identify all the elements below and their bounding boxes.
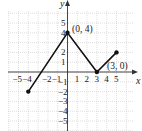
svg-text:−3: −3 <box>58 96 68 106</box>
svg-text:−4: −4 <box>22 74 32 84</box>
svg-text:1: 1 <box>75 74 80 84</box>
svg-text:1: 1 <box>61 57 66 67</box>
svg-text:−5: −5 <box>58 116 68 126</box>
svg-text:2: 2 <box>85 74 90 84</box>
y-axis-label: y <box>59 0 65 9</box>
svg-text:2: 2 <box>61 47 66 57</box>
svg-text:3: 3 <box>94 74 99 84</box>
x-axis-arrow-icon <box>132 70 138 75</box>
svg-text:−4: −4 <box>58 106 68 116</box>
svg-text:4: 4 <box>104 74 109 84</box>
annotation-peak: (0, 4) <box>72 24 93 35</box>
annotation-trough: (3, 0) <box>107 61 128 72</box>
svg-text:5: 5 <box>114 74 119 84</box>
x-axis-label: x <box>135 75 141 86</box>
svg-text:−1: −1 <box>58 77 68 87</box>
svg-text:−5: −5 <box>13 74 23 84</box>
svg-text:−2: −2 <box>42 74 52 84</box>
svg-text:−2: −2 <box>58 87 68 97</box>
svg-text:5: 5 <box>61 18 66 28</box>
chart: x y −5−4−2−1123455421−1−2−3−4−5 (0, 4) (… <box>0 0 142 131</box>
grid <box>8 11 133 131</box>
y-axis-arrow-icon <box>65 0 70 6</box>
